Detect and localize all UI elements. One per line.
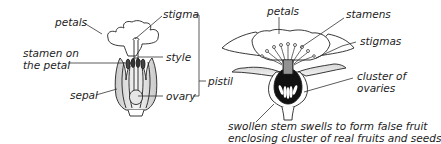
- label-stamen-on-petal: stamen on the petal: [23, 47, 79, 71]
- right-sepal-right: [298, 64, 346, 76]
- left-anther: [126, 59, 130, 69]
- caption-line1: swollen stem swells to form false fruit: [228, 120, 441, 132]
- label-stamens: stamens: [346, 9, 391, 20]
- label-cluster-line2: ovaries: [357, 82, 406, 94]
- right-flower: [222, 29, 354, 120]
- left-anther: [131, 59, 135, 68]
- caption-line2: enclosing cluster of real fruits and see…: [228, 132, 441, 144]
- left-flower: [108, 21, 159, 116]
- caption-false-fruit: swollen stem swells to form false fruit …: [228, 120, 441, 144]
- left-ovary: [129, 90, 142, 105]
- label-right-petals: petals: [267, 6, 299, 17]
- label-stigma: stigma: [163, 9, 199, 20]
- left-receptacle: [128, 110, 144, 116]
- pistil-bracket: [193, 15, 206, 96]
- label-stigmas: stigmas: [360, 36, 401, 47]
- label-cluster-of-ovaries: cluster of ovaries: [357, 70, 406, 94]
- label-stamen-line2: the petal: [23, 59, 79, 71]
- right-sepal-left: [232, 67, 280, 76]
- label-sepal: sepal: [70, 90, 98, 101]
- label-style: style: [166, 52, 191, 63]
- left-anther: [141, 59, 145, 69]
- label-stamen-line1: stamen on: [23, 47, 79, 59]
- label-left-petals: petals: [55, 17, 87, 28]
- right-stem: [282, 107, 294, 120]
- label-ovary: ovary: [166, 91, 196, 102]
- right-style-bundle: [283, 60, 293, 74]
- label-cluster-line1: cluster of: [357, 70, 406, 82]
- right-front-petal: [252, 29, 330, 60]
- label-pistil: pistil: [208, 76, 233, 87]
- left-anther: [136, 59, 140, 68]
